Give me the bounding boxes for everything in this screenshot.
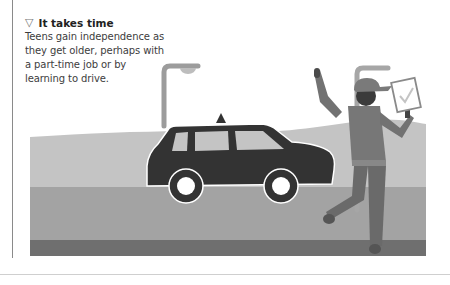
clipboard-icon	[391, 78, 421, 112]
caption-heading: ▽ It takes time	[25, 16, 165, 29]
footer-divider	[0, 274, 450, 275]
street-lamp-left-icon	[164, 66, 198, 126]
road-strip	[30, 240, 426, 256]
caption-box-border	[12, 0, 13, 258]
driving-illustration	[30, 60, 426, 256]
caption-title: It takes time	[38, 17, 113, 29]
triangle-marker-icon: ▽	[25, 16, 33, 29]
